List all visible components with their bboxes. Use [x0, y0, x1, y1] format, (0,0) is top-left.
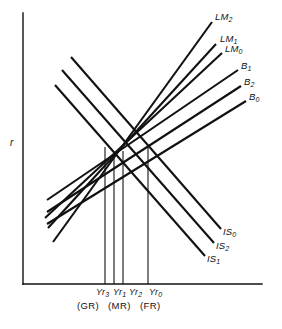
x-tick-label-Yr3: Yr3	[96, 288, 109, 298]
regime-label-gr: (GR)	[77, 301, 99, 311]
curve-IS0	[71, 57, 221, 229]
x-tick-label-Yr2: Yr2	[129, 288, 142, 298]
curve-IS1	[55, 85, 205, 256]
curve-B2	[47, 86, 241, 212]
curve-label-IS0: IS0	[223, 227, 236, 238]
curve-label-B0: B0	[249, 92, 259, 103]
curves-group	[45, 22, 246, 256]
curve-label-IS1: IS1	[207, 254, 220, 265]
curve-label-IS2: IS2	[216, 241, 229, 252]
y-axis-label: r	[10, 138, 13, 148]
x-tick-label-Yr0: Yr0	[149, 288, 162, 298]
curve-label-B1: B1	[241, 61, 251, 72]
is-lm-b-diagram: r LM2 LM1 LM0 B1 B2 B0 IS0 IS2 IS1 Yr3 Y…	[0, 0, 282, 329]
curve-IS2	[62, 70, 214, 243]
curve-label-B2: B2	[244, 77, 254, 88]
curve-label-LM0: LM0	[225, 44, 242, 55]
regime-label-fr: (FR)	[140, 301, 161, 311]
x-tick-label-Yr1: Yr1	[113, 288, 126, 298]
curve-LM0	[45, 53, 222, 218]
curve-B1	[47, 70, 238, 200]
regime-label-mr: (MR)	[108, 301, 131, 311]
curve-label-LM2: LM2	[215, 12, 232, 23]
curve-LM2	[53, 22, 212, 242]
